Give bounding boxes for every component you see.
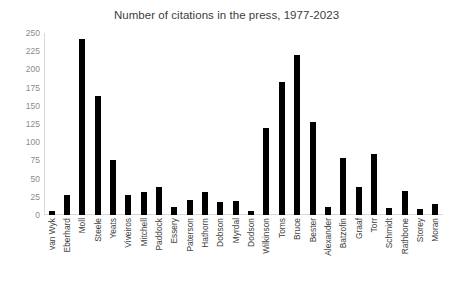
bar-slot xyxy=(59,33,74,215)
x-axis-label-slot: Toms xyxy=(274,218,289,280)
bar-slot xyxy=(412,33,427,215)
bar xyxy=(325,207,331,215)
x-axis-label: van Wyk xyxy=(47,218,55,250)
x-axis-label: Bruce xyxy=(293,218,301,240)
x-axis-label: Myrdal xyxy=(232,218,240,243)
x-axis-label: Paddock xyxy=(155,218,163,251)
x-axis-label-slot: Paddock xyxy=(151,218,166,280)
bar xyxy=(371,154,377,215)
x-axis-label-slot: Bester xyxy=(305,218,320,280)
x-axis-label-slot: Viveiros xyxy=(121,218,136,280)
x-axis-label-slot: Moran xyxy=(428,218,443,280)
bar xyxy=(156,187,162,215)
chart-title: Number of citations in the press, 1977-2… xyxy=(0,9,453,21)
x-axis-label-slot: Bruce xyxy=(290,218,305,280)
bar xyxy=(64,195,70,215)
x-axis-label: Steele xyxy=(94,218,102,242)
bar-slot xyxy=(167,33,182,215)
bar xyxy=(417,209,423,215)
x-axis-label: Eberhard xyxy=(63,218,71,252)
bar-slot xyxy=(243,33,258,215)
bar-slot xyxy=(90,33,105,215)
bar xyxy=(386,208,392,215)
x-axis-label-slot: Paterson xyxy=(182,218,197,280)
x-axis-label-slot: Dodson xyxy=(243,218,258,280)
x-axis-label: Moll xyxy=(78,218,86,233)
x-axis-label-slot: Rathbone xyxy=(397,218,412,280)
x-axis-label: Storey xyxy=(416,218,424,242)
bar-slot xyxy=(151,33,166,215)
x-axis-label-slot: Mitchell xyxy=(136,218,151,280)
x-axis-label-slot: Hathorn xyxy=(197,218,212,280)
bar xyxy=(171,207,177,215)
bar xyxy=(233,201,239,215)
bar-slot xyxy=(197,33,212,215)
x-axis-label-slot: Moll xyxy=(75,218,90,280)
x-axis-label-slot: Eberhard xyxy=(59,218,74,280)
bar xyxy=(125,195,131,215)
bar xyxy=(310,122,316,215)
bar xyxy=(279,82,285,215)
x-axis-label-slot: van Wyk xyxy=(44,218,59,280)
gridline xyxy=(44,215,443,216)
bar-slot xyxy=(336,33,351,215)
bar-slot xyxy=(290,33,305,215)
x-axis-label-slot: Schmidt xyxy=(382,218,397,280)
bar xyxy=(340,158,346,215)
x-axis-label: Batzofin xyxy=(339,218,347,248)
bar xyxy=(248,211,254,215)
y-axis-tick-label: 25 xyxy=(31,193,40,202)
bar-slot xyxy=(382,33,397,215)
x-axis-label-slot: Torr xyxy=(366,218,381,280)
x-axis-label: Moran xyxy=(431,218,439,242)
bar xyxy=(432,204,438,215)
bar-series xyxy=(44,33,443,215)
bar xyxy=(263,128,269,215)
x-axis-label-slot: Steele xyxy=(90,218,105,280)
y-axis-tick-label: 200 xyxy=(26,65,40,74)
bar-slot xyxy=(228,33,243,215)
bar xyxy=(202,192,208,215)
y-axis-tick-label: 225 xyxy=(26,47,40,56)
x-axis-label-slot: Batzofin xyxy=(336,218,351,280)
bar-slot xyxy=(366,33,381,215)
x-axis-label: Torr xyxy=(370,218,378,232)
bar xyxy=(187,200,193,215)
x-axis-label: Hathorn xyxy=(201,218,209,248)
bar-slot xyxy=(182,33,197,215)
x-axis-label-slot: Graaf xyxy=(351,218,366,280)
bar xyxy=(110,160,116,215)
y-axis-tick-label: 0 xyxy=(35,211,40,220)
bar xyxy=(217,202,223,215)
x-axis-label: Toms xyxy=(278,218,286,238)
bar-slot xyxy=(136,33,151,215)
bar xyxy=(141,192,147,215)
y-axis-tick-label: 150 xyxy=(26,102,40,111)
x-axis-label: Yeats xyxy=(109,218,117,239)
x-axis-label: Paterson xyxy=(186,218,194,252)
bar-slot xyxy=(105,33,120,215)
x-axis-label: Mitchell xyxy=(140,218,148,246)
bar-slot xyxy=(397,33,412,215)
y-axis-tick-label: 250 xyxy=(26,29,40,38)
x-axis-label: Dobson xyxy=(216,218,224,247)
x-axis-label: Alexander xyxy=(324,218,332,256)
bar-slot xyxy=(213,33,228,215)
y-axis-tick-label: 100 xyxy=(26,138,40,147)
x-axis-label: Bester xyxy=(308,218,316,242)
bar xyxy=(49,211,55,215)
bar xyxy=(294,55,300,215)
x-axis-label: Viveiros xyxy=(124,218,132,248)
x-axis-label-slot: Dobson xyxy=(213,218,228,280)
bar-slot xyxy=(274,33,289,215)
bar xyxy=(79,39,85,215)
x-axis-label: Dodson xyxy=(247,218,255,247)
x-axis-label: Graaf xyxy=(354,218,362,239)
y-axis-tick-label: 175 xyxy=(26,83,40,92)
y-axis-tick-label: 125 xyxy=(26,120,40,129)
bar xyxy=(95,96,101,215)
y-axis-tick-label: 50 xyxy=(31,174,40,183)
x-axis-label-slot: Wilkinson xyxy=(259,218,274,280)
x-axis-label: Schmidt xyxy=(385,218,393,248)
bar-slot xyxy=(320,33,335,215)
